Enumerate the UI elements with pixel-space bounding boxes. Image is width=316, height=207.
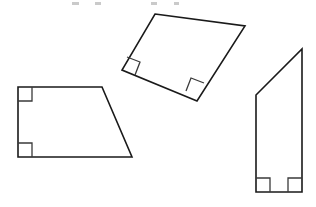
clipped-text-fragment — [174, 2, 179, 5]
clipped-text-fragment — [72, 2, 79, 5]
clipped-text-fragment — [151, 2, 157, 5]
geometry-figure-canvas: Quadrilaterals with Right Angles — [0, 0, 316, 207]
clipped-text-fragment — [95, 2, 101, 5]
